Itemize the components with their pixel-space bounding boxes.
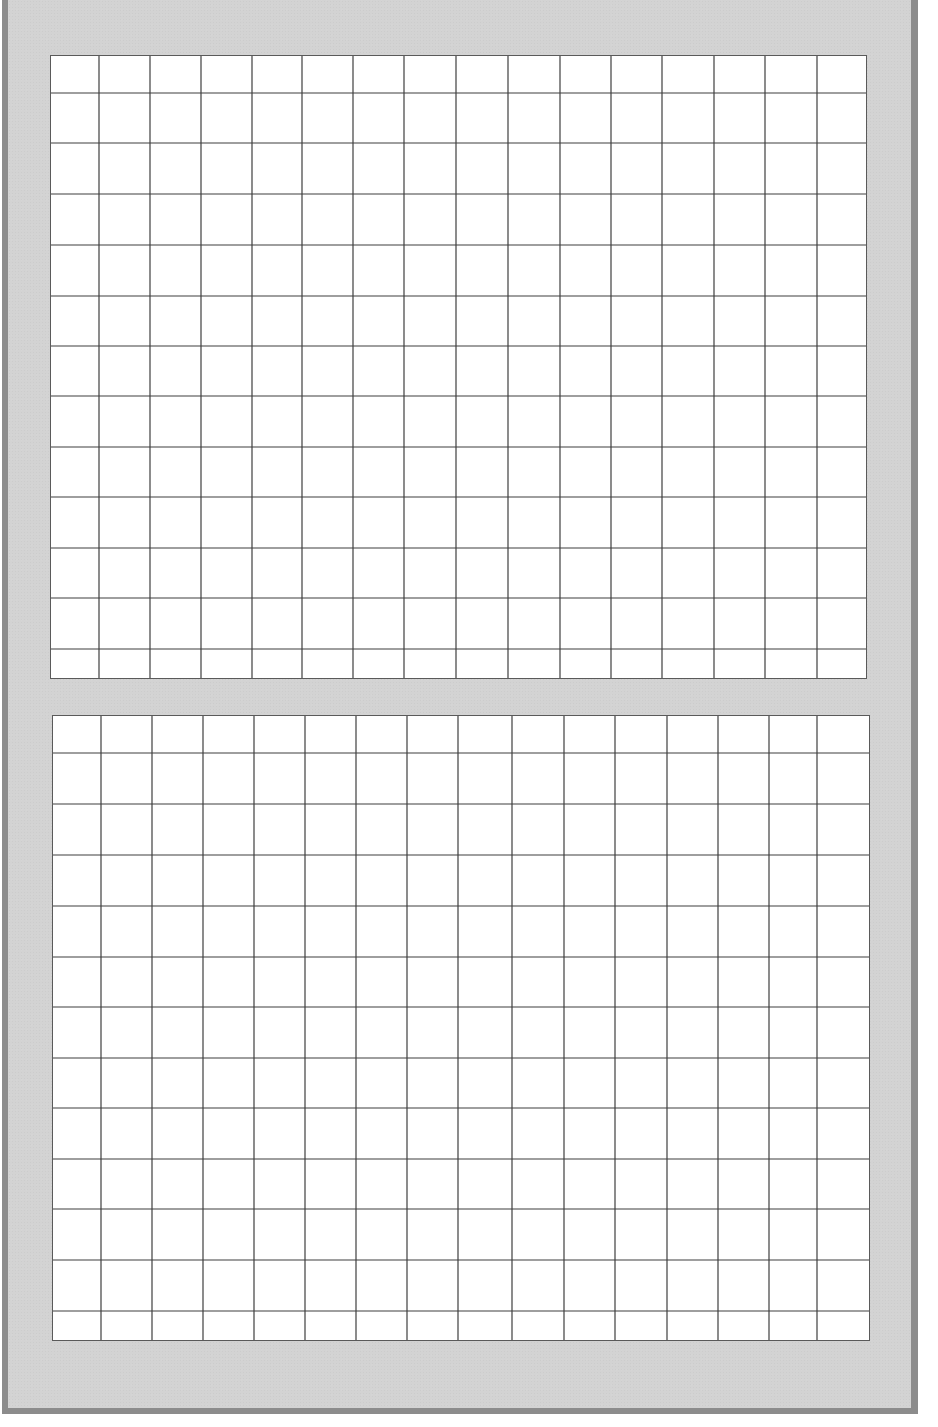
bottom-grid-lines: [53, 716, 870, 1341]
top-grid-lines: [51, 56, 867, 679]
bottom-grid-panel: [52, 715, 870, 1341]
top-grid-panel: [50, 55, 867, 679]
